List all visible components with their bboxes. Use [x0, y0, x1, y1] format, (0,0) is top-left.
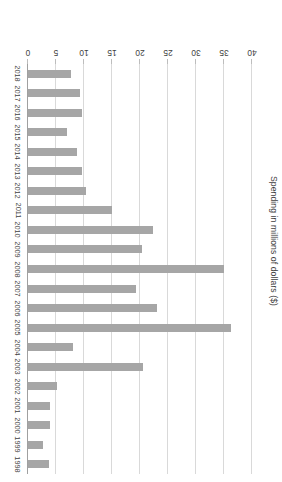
- category-label-text: 2010: [13, 222, 22, 238]
- category-label-text: 2001: [13, 397, 22, 413]
- category-label: 2017: [0, 84, 26, 104]
- category-label-text: 2002: [13, 378, 22, 394]
- category-label: 2002: [0, 376, 26, 396]
- axis-tick-label: 0: [13, 48, 43, 58]
- bar: [28, 304, 157, 312]
- category-label: 2007: [0, 279, 26, 299]
- bar: [28, 363, 143, 371]
- bar: [28, 343, 73, 351]
- bar: [28, 421, 50, 429]
- category-label-text: 2007: [13, 280, 22, 296]
- bar: [28, 382, 57, 390]
- category-label-text: 2011: [14, 203, 23, 219]
- axis-tick: [139, 59, 140, 64]
- bar: [28, 70, 71, 78]
- category-label: 2018: [0, 64, 26, 84]
- axis-tick-label: 10: [69, 48, 99, 58]
- category-label-text: 2017: [13, 85, 22, 101]
- axis-tick: [223, 59, 224, 64]
- bar: [28, 187, 86, 195]
- category-label: 1999: [0, 435, 26, 455]
- category-label-text: 2006: [13, 300, 22, 316]
- category-label: 2009: [0, 240, 26, 260]
- bar: [28, 167, 82, 175]
- axis-tick-label: 5: [41, 48, 71, 58]
- axis-tick: [55, 59, 56, 64]
- category-label-text: 2018: [13, 66, 22, 82]
- category-axis-labels: 1998199920002001200220032004200520062007…: [0, 64, 26, 474]
- category-label-text: 2013: [13, 163, 22, 179]
- category-label-text: 2009: [13, 241, 22, 257]
- category-label: 1998: [0, 454, 26, 474]
- category-label: 2016: [0, 103, 26, 123]
- category-label: 2008: [0, 259, 26, 279]
- category-label: 2001: [0, 396, 26, 416]
- axis-tick-label: 40: [237, 48, 267, 58]
- category-label: 2004: [0, 337, 26, 357]
- axis-tick-label: 20: [125, 48, 155, 58]
- bar: [28, 460, 49, 468]
- bar: [28, 226, 153, 234]
- category-label: 2000: [0, 415, 26, 435]
- bar: [28, 265, 224, 273]
- category-label-text: 2012: [13, 183, 22, 199]
- axis-tick: [167, 59, 168, 64]
- bar: [28, 148, 77, 156]
- plot-area: [28, 64, 252, 474]
- category-label: 2010: [0, 220, 26, 240]
- category-label: 2005: [0, 318, 26, 338]
- bar: [28, 285, 136, 293]
- bar: [28, 109, 82, 117]
- axis-tick: [27, 59, 28, 64]
- axis-tick: [251, 59, 252, 64]
- bar: [28, 128, 67, 136]
- category-label-text: 2014: [13, 144, 22, 160]
- category-label-text: 1999: [13, 437, 22, 453]
- category-label-text: 2015: [13, 124, 22, 140]
- category-label-text: 2008: [13, 261, 22, 277]
- category-label: 2015: [0, 123, 26, 143]
- category-label: 2003: [0, 357, 26, 377]
- category-label: 2013: [0, 162, 26, 182]
- category-label: 2011: [0, 201, 26, 221]
- axis-tick-label: 30: [181, 48, 211, 58]
- axis-tick: [111, 59, 112, 64]
- category-label: 2014: [0, 142, 26, 162]
- value-axis-title: Spending in millions of dollars ($): [266, 0, 282, 482]
- value-axis-tick-labels: 0510152025303540: [0, 36, 282, 58]
- bar: [28, 245, 142, 253]
- axis-tick-label: 35: [209, 48, 239, 58]
- axis-tick-label: 15: [97, 48, 127, 58]
- axis-tick-label: 25: [153, 48, 183, 58]
- bar: [28, 324, 231, 332]
- category-label-text: 2000: [13, 417, 22, 433]
- bar-chart-figure: Spending in millions of dollars ($) 0510…: [0, 0, 282, 482]
- chart-rotated-canvas: Spending in millions of dollars ($) 0510…: [0, 0, 282, 482]
- gridline: [251, 64, 252, 474]
- category-label-text: 2005: [13, 319, 22, 335]
- bar: [28, 89, 80, 97]
- category-label: 2006: [0, 298, 26, 318]
- bar: [28, 402, 50, 410]
- category-label-text: 1998: [13, 456, 22, 472]
- bar: [28, 441, 43, 449]
- axis-tick: [195, 59, 196, 64]
- category-label-text: 2016: [13, 105, 22, 121]
- bar: [28, 206, 112, 214]
- category-label-text: 2003: [13, 358, 22, 374]
- category-label: 2012: [0, 181, 26, 201]
- axis-tick: [83, 59, 84, 64]
- category-label-text: 2004: [13, 339, 22, 355]
